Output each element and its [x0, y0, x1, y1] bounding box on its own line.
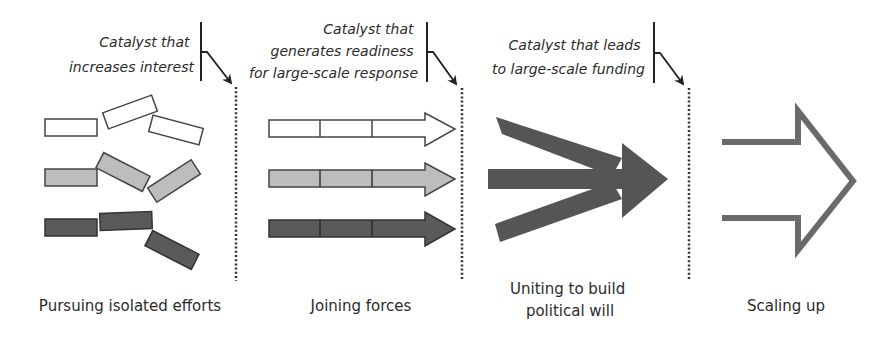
catalyst-3-line-2: to large-scale funding — [492, 61, 645, 77]
isolated-bar-gray-1 — [45, 169, 97, 186]
outline-arrow-icon — [722, 111, 853, 250]
stage-label-joining-line-1: Joining forces — [310, 297, 412, 315]
isolated-bar-white-1 — [45, 119, 97, 136]
isolated-bar-gray-3 — [148, 160, 201, 203]
catalyst-1-pointer-arrow-icon — [201, 52, 231, 83]
catalyst-1-line-2: increases interest — [69, 59, 195, 75]
catalyst-3-line-1: Catalyst that leads — [509, 37, 641, 53]
isolated-bar-white-3 — [149, 115, 204, 145]
stage-label-uniting-line-1: Uniting to build — [510, 280, 625, 298]
joined-arrow-white — [269, 113, 455, 146]
stages-diagram: Catalyst that increases interest Catalys… — [0, 0, 895, 341]
joined-arrow-gray — [269, 163, 455, 196]
catalyst-2-line-2: generates readiness — [271, 43, 414, 59]
catalyst-2: Catalyst that generates readiness for la… — [249, 21, 456, 84]
joined-arrow-dark — [269, 212, 455, 246]
stage-label-isolated: Pursuing isolated efforts — [39, 297, 221, 315]
catalyst-2-text: Catalyst that generates readiness for la… — [249, 21, 418, 81]
stage-label-scaling: Scaling up — [747, 297, 825, 315]
isolated-bar-dark-1 — [45, 219, 97, 236]
isolated-bar-dark-2 — [100, 212, 153, 231]
catalyst-1-text: Catalyst that increases interest — [69, 34, 195, 75]
isolated-bar-white-2 — [103, 95, 158, 129]
catalyst-2-pointer-arrow-icon — [427, 52, 456, 84]
isolated-bar-dark-3 — [145, 231, 199, 270]
catalyst-1: Catalyst that increases interest — [69, 22, 231, 83]
catalyst-3: Catalyst that leads to large-scale fundi… — [492, 22, 683, 84]
isolated-bar-gray-2 — [96, 153, 150, 192]
converging-arrow-icon — [488, 117, 668, 242]
stage-label-uniting-line-2: political will — [526, 302, 614, 320]
catalyst-2-line-3: for large-scale response — [249, 65, 418, 81]
stage-label-isolated-line-1: Pursuing isolated efforts — [39, 297, 221, 315]
catalyst-1-line-1: Catalyst that — [99, 34, 190, 50]
catalyst-2-line-1: Catalyst that — [323, 21, 414, 37]
scattered-bars-icon — [45, 95, 203, 269]
stage-label-scaling-line-1: Scaling up — [747, 297, 825, 315]
parallel-arrows-icon — [269, 113, 455, 246]
catalyst-3-pointer-arrow-icon — [654, 53, 683, 84]
stage-label-joining: Joining forces — [310, 297, 412, 315]
stage-label-uniting: Uniting to build political will — [510, 280, 630, 320]
catalyst-3-text: Catalyst that leads to large-scale fundi… — [492, 37, 645, 77]
